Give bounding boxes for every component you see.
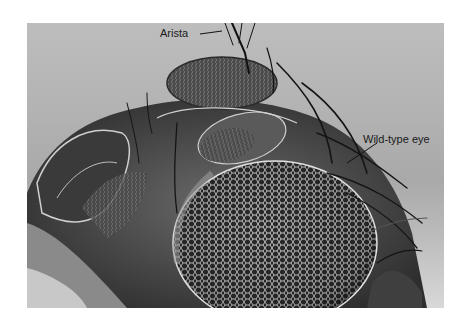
fly-head-illustration bbox=[27, 23, 444, 308]
micrograph-photo bbox=[27, 23, 444, 308]
wild-type-eye-label: Wild-type eye bbox=[363, 134, 430, 145]
arista-label: Arista bbox=[160, 28, 188, 39]
